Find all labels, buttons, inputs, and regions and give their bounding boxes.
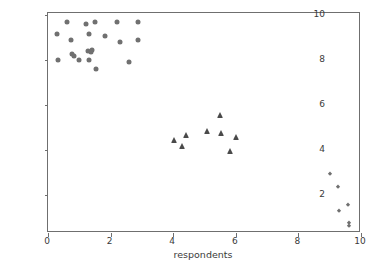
y-tick-mark — [45, 15, 49, 16]
scatter-chart-figure: sustainability impact respondents 246810… — [0, 0, 377, 270]
data-point — [336, 184, 341, 189]
y-tick-label: 2 — [319, 189, 325, 199]
data-point — [233, 134, 239, 140]
x-tick-label: 2 — [107, 236, 113, 246]
data-point — [217, 112, 223, 118]
data-point — [84, 22, 89, 27]
data-point — [328, 171, 333, 176]
data-point — [102, 33, 107, 38]
data-point — [204, 128, 210, 134]
y-tick-label: 6 — [319, 99, 325, 109]
x-tick-label: 0 — [44, 236, 50, 246]
data-point — [86, 31, 91, 36]
data-point — [345, 202, 350, 207]
data-point — [126, 60, 131, 65]
x-tick-label: 6 — [232, 236, 238, 246]
data-point — [68, 38, 73, 43]
data-point — [135, 20, 140, 25]
data-point — [76, 58, 81, 63]
data-point — [71, 54, 76, 59]
data-point — [117, 40, 122, 45]
data-point — [90, 47, 95, 52]
x-axis-title: respondents — [174, 249, 233, 260]
data-point — [183, 132, 189, 138]
data-point — [179, 143, 185, 149]
y-tick-label: 8 — [319, 54, 325, 64]
data-point — [93, 67, 98, 72]
data-point — [227, 148, 233, 154]
y-tick-mark — [45, 150, 49, 151]
data-point — [87, 58, 92, 63]
data-point — [65, 19, 70, 24]
data-point — [56, 58, 61, 63]
data-point — [171, 137, 177, 143]
data-point — [136, 38, 141, 43]
data-point — [337, 209, 342, 214]
plot-area — [48, 13, 359, 231]
y-tick-mark — [45, 105, 49, 106]
data-point — [92, 19, 97, 24]
y-tick-label: 10 — [314, 9, 325, 19]
y-tick-mark — [45, 60, 49, 61]
data-point — [218, 130, 224, 136]
x-tick-label: 10 — [354, 236, 365, 246]
x-tick-label: 4 — [169, 236, 175, 246]
y-tick-label: 4 — [319, 144, 325, 154]
data-point — [114, 19, 119, 24]
x-tick-label: 8 — [295, 236, 301, 246]
y-tick-mark — [45, 195, 49, 196]
plot-axes — [47, 12, 360, 232]
data-point — [347, 223, 352, 228]
data-point — [55, 31, 60, 36]
